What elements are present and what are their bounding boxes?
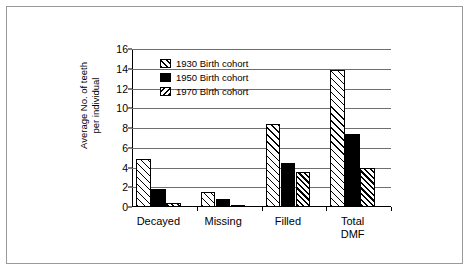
y-axis-tick-label: 10 [116, 102, 128, 114]
bar [330, 70, 345, 207]
legend: 1930 Birth cohort1950 Birth cohort1970 B… [160, 57, 248, 98]
bar [166, 203, 181, 207]
bar [216, 199, 231, 207]
y-axis-tick-label: 16 [116, 43, 128, 55]
legend-swatch-icon [160, 87, 171, 96]
bar [281, 163, 296, 207]
legend-item: 1970 Birth cohort [160, 85, 248, 98]
x-axis-category-label-line: DMF [341, 228, 365, 240]
bar [266, 124, 281, 207]
y-axis-tick-label: 6 [122, 142, 128, 154]
x-axis-category-label-line: Missing [204, 215, 241, 227]
x-axis-category-label: Missing [204, 215, 241, 228]
bar [360, 168, 375, 208]
x-axis-category-label: Filled [275, 215, 301, 228]
bar [201, 192, 216, 207]
legend-swatch-icon [160, 59, 171, 68]
x-axis-category-label: TotalDMF [341, 215, 365, 241]
y-axis-title-line-1: Average No. of teeth [78, 62, 89, 149]
bar [231, 205, 246, 207]
legend-item-label: 1930 Birth cohort [176, 58, 248, 69]
x-axis-tick-mark [262, 207, 263, 211]
legend-swatch-icon [160, 73, 171, 82]
figure-frame: Average No. of teeth per individual 0246… [6, 6, 463, 264]
x-axis-category-label-line: Filled [275, 215, 301, 227]
plot-area: 0246810121416 DecayedMissingFilledTotalD… [132, 49, 391, 207]
legend-item-label: 1970 Birth cohort [176, 86, 248, 97]
y-axis-tick-label: 14 [116, 63, 128, 75]
x-axis-tick-mark [326, 207, 327, 211]
y-axis-tick-label: 8 [122, 122, 128, 134]
legend-item: 1930 Birth cohort [160, 57, 248, 70]
x-axis-tick-mark [391, 207, 392, 211]
y-axis-tick-label: 0 [122, 201, 128, 213]
y-axis-title-line-2: per individual [89, 77, 100, 133]
x-axis-category-label: Decayed [137, 215, 180, 228]
bar [151, 189, 166, 207]
y-axis-tick-label: 12 [116, 83, 128, 95]
x-axis-tick-mark [197, 207, 198, 211]
x-axis-category-label-line: Total [341, 215, 364, 227]
bar [345, 134, 360, 207]
legend-item: 1950 Birth cohort [160, 71, 248, 84]
y-axis-tick-label: 2 [122, 181, 128, 193]
bar [136, 159, 151, 207]
legend-item-label: 1950 Birth cohort [176, 72, 248, 83]
x-axis-category-label-line: Decayed [137, 215, 180, 227]
bar-group [330, 49, 375, 207]
bar [296, 172, 311, 207]
bar-group [266, 49, 311, 207]
y-axis-tick-label: 4 [122, 162, 128, 174]
